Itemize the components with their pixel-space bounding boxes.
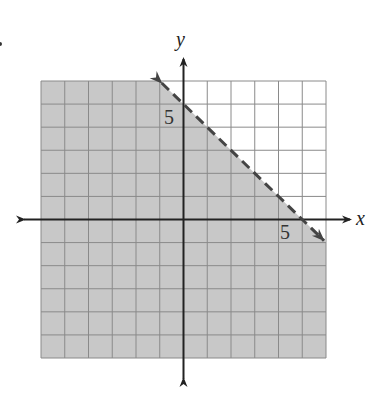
inequality-graph: x y 5 5 — [0, 0, 383, 402]
x-tick-label-5: 5 — [280, 221, 290, 243]
x-axis-label: x — [355, 207, 365, 229]
y-axis-label: y — [174, 28, 185, 51]
y-tick-label-5: 5 — [164, 106, 174, 128]
